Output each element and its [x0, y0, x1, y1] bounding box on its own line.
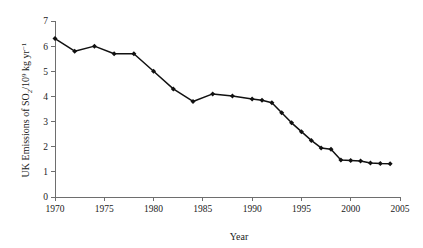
x-axis-title: Year — [230, 231, 249, 242]
svg-text:UK Emissions of SO2/109 kg yr−: UK Emissions of SO2/109 kg yr−1 — [20, 42, 34, 177]
chart-figure: 01234567 1970197519801985199019952000200… — [0, 0, 423, 248]
y-axis-title-tail: kg yr — [20, 49, 31, 73]
y-tick-label: 3 — [43, 117, 48, 127]
y-tick-label: 4 — [43, 92, 48, 102]
y-axis-title-exponent-negative: −1 — [20, 42, 28, 50]
y-tick-label: 5 — [43, 67, 48, 77]
y-axis-title: UK Emissions of SO2/109 kg yr−1 — [20, 42, 34, 177]
y-tick-label: 1 — [43, 167, 48, 177]
x-tick-label: 1970 — [46, 204, 65, 214]
data-series-line — [55, 39, 390, 164]
line-chart: 01234567 1970197519801985199019952000200… — [0, 0, 423, 248]
data-point-marker — [388, 161, 393, 166]
data-point-marker — [378, 161, 383, 166]
x-tick-label: 1975 — [95, 204, 114, 214]
y-tick-label: 6 — [43, 42, 48, 52]
data-point-marker — [358, 159, 363, 164]
data-point-marker — [230, 93, 235, 98]
data-point-markers — [53, 36, 393, 166]
y-tick-label: 0 — [43, 192, 48, 202]
data-point-marker — [260, 98, 265, 103]
data-point-marker — [92, 44, 97, 49]
x-tick-label: 1985 — [193, 204, 212, 214]
data-point-marker — [112, 51, 117, 56]
x-tick-label: 1995 — [292, 204, 311, 214]
y-axis-title-lead: UK Emissions of SO — [20, 93, 31, 177]
x-axis: 19701975198019851990199520002005 — [46, 197, 410, 214]
data-point-marker — [348, 158, 353, 163]
data-point-marker — [368, 161, 373, 166]
y-axis: 01234567 — [43, 16, 55, 202]
series-polyline — [55, 39, 390, 164]
data-point-marker — [250, 96, 255, 101]
x-tick-label: 1980 — [144, 204, 163, 214]
y-tick-label: 2 — [43, 142, 48, 152]
x-tick-label: 2000 — [341, 204, 360, 214]
y-tick-label: 7 — [43, 16, 48, 26]
x-tick-label: 2005 — [391, 204, 410, 214]
y-axis-title-mid: /10 — [20, 77, 31, 90]
x-tick-label: 1990 — [243, 204, 262, 214]
data-point-marker — [210, 91, 215, 96]
